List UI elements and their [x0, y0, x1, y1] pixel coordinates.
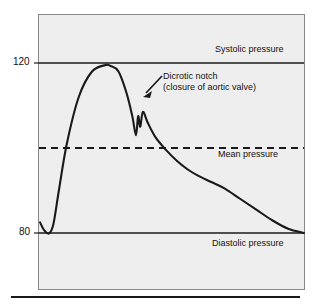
diastolic-pressure-label: Diastolic pressure	[212, 238, 284, 249]
systolic-pressure-label: Systolic pressure	[215, 44, 284, 55]
dicrotic-notch-arrow-shaft	[146, 76, 162, 93]
dicrotic-notch-label-line2: (closure of aortic valve)	[163, 82, 256, 93]
figure-container: 120 80 Systolic pressure Mean pressure D…	[0, 0, 323, 304]
dicrotic-notch-label-line1: Dicrotic notch	[163, 71, 256, 82]
dicrotic-notch-annotation: Dicrotic notch (closure of aortic valve)	[163, 71, 256, 93]
y-tick-label-80: 80	[19, 226, 30, 237]
mean-pressure-label: Mean pressure	[218, 149, 278, 160]
footer-rule	[11, 296, 300, 298]
y-tick-label-120: 120	[13, 56, 30, 67]
